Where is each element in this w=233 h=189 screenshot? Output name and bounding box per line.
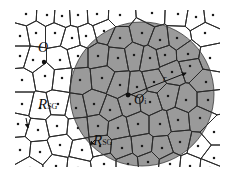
seed-point <box>149 57 151 59</box>
seed-point <box>141 145 143 147</box>
seed-point <box>213 157 215 159</box>
seed-point <box>32 59 34 61</box>
label-r: r <box>163 74 167 83</box>
seed-point <box>61 77 63 79</box>
seed-point <box>159 123 161 125</box>
seed-point <box>207 99 209 101</box>
seed-point <box>205 81 207 83</box>
seed-point <box>19 149 21 151</box>
voronoi-cell <box>52 68 72 93</box>
voronoi-figure <box>0 0 233 189</box>
seed-point <box>212 14 214 16</box>
seed-point <box>61 15 63 17</box>
seed-point <box>97 55 99 57</box>
seed-point <box>171 71 173 73</box>
seed-point <box>149 101 151 103</box>
seed-point <box>79 79 81 81</box>
seed-point <box>189 165 191 167</box>
seed-point <box>117 57 119 59</box>
seed-point <box>19 35 21 37</box>
label-rsg-bottom: RSG <box>93 133 112 148</box>
seed-point <box>37 129 39 131</box>
seed-point <box>93 103 95 105</box>
seed-point <box>169 163 171 165</box>
seed-point <box>179 141 181 143</box>
seed-point <box>25 13 27 15</box>
seed-point <box>213 131 215 133</box>
seed-point <box>119 14 121 16</box>
seed-point <box>109 109 111 111</box>
seed-point <box>81 149 83 151</box>
seed-point <box>35 32 37 34</box>
seed-point <box>176 37 178 39</box>
seed-point <box>137 123 139 125</box>
seed-point <box>209 57 211 59</box>
seed-point <box>141 32 143 34</box>
seed-point <box>204 32 206 34</box>
seed-point <box>151 12 153 14</box>
seed-point <box>136 86 138 88</box>
seed-point <box>75 107 77 109</box>
rsg-left-arrow <box>26 118 28 128</box>
seed-point <box>77 55 79 57</box>
voronoi-cell <box>201 145 225 168</box>
label-o-i: Oi <box>134 93 146 107</box>
seed-point <box>54 32 56 34</box>
seed-point <box>209 167 211 169</box>
voronoi-cell <box>43 154 68 172</box>
seed-point <box>59 59 61 61</box>
voronoi-cell <box>165 5 189 26</box>
seed-point <box>197 145 199 147</box>
seed-point <box>77 14 79 16</box>
voronoi-cell <box>10 157 43 173</box>
seed-point <box>39 151 41 153</box>
voronoi-cell <box>67 157 92 173</box>
seed-point <box>101 77 103 79</box>
seed-point <box>164 54 166 56</box>
seed-point <box>46 14 48 16</box>
label-rsg-left: RSG <box>38 97 57 112</box>
label-o-prime: O <box>38 41 48 55</box>
seed-point <box>117 127 119 129</box>
seed-point <box>59 144 61 146</box>
seed-point <box>44 75 46 77</box>
seed-point <box>103 30 105 32</box>
seed-point <box>153 81 155 83</box>
seed-point <box>119 37 121 39</box>
seed-point <box>189 65 191 67</box>
seed-point <box>77 167 79 169</box>
seed-point <box>19 55 21 57</box>
voronoi-cell <box>87 5 109 26</box>
seed-point <box>71 37 73 39</box>
voronoi-cell <box>10 137 31 168</box>
seed-point <box>167 95 169 97</box>
seed-point <box>103 163 105 165</box>
seed-point <box>55 165 57 167</box>
seed-point <box>147 161 149 163</box>
voronoi-cell <box>200 159 226 172</box>
seed-point <box>199 117 201 119</box>
seed-point <box>159 39 161 41</box>
shaded-region <box>10 5 225 172</box>
seed-point <box>177 119 179 121</box>
seed-point <box>56 125 58 127</box>
voronoi-cell <box>46 23 66 49</box>
voronoi-cell <box>179 153 201 172</box>
seed-point <box>119 84 121 86</box>
seed-point <box>177 13 179 15</box>
origin-point <box>42 60 46 64</box>
seed-point <box>96 13 98 15</box>
seed-point <box>187 53 189 55</box>
seed-point <box>121 147 123 149</box>
voronoi-cell <box>33 62 55 92</box>
seed-point <box>185 99 187 101</box>
seed-point <box>133 54 135 56</box>
voronoi-cell <box>203 5 225 31</box>
seed-point <box>21 103 23 105</box>
seed-point <box>17 123 19 125</box>
seed-point <box>29 167 31 169</box>
seed-point <box>161 147 163 149</box>
seed-point <box>129 103 131 105</box>
center-point <box>126 93 131 98</box>
seed-point <box>21 79 23 81</box>
